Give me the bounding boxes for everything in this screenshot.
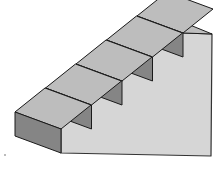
staircase-figure xyxy=(0,0,223,169)
speck-mark xyxy=(4,154,6,156)
